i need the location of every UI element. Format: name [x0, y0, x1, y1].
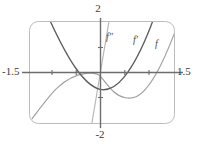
y-axis-min-label: -2 — [95, 129, 104, 140]
curve-label-f-prime: f′ — [133, 35, 138, 45]
derivative-graph-figure: 2 -2 -1.5 1.5 f″ f′ f — [0, 0, 201, 147]
plot-canvas — [0, 0, 201, 147]
y-axis-max-label: 2 — [95, 3, 101, 14]
x-axis-max-label: 1.5 — [177, 66, 191, 77]
x-axis-min-label: -1.5 — [2, 66, 19, 77]
curve-label-f: f — [155, 39, 158, 49]
curve-label-f-double-prime: f″ — [106, 32, 113, 42]
